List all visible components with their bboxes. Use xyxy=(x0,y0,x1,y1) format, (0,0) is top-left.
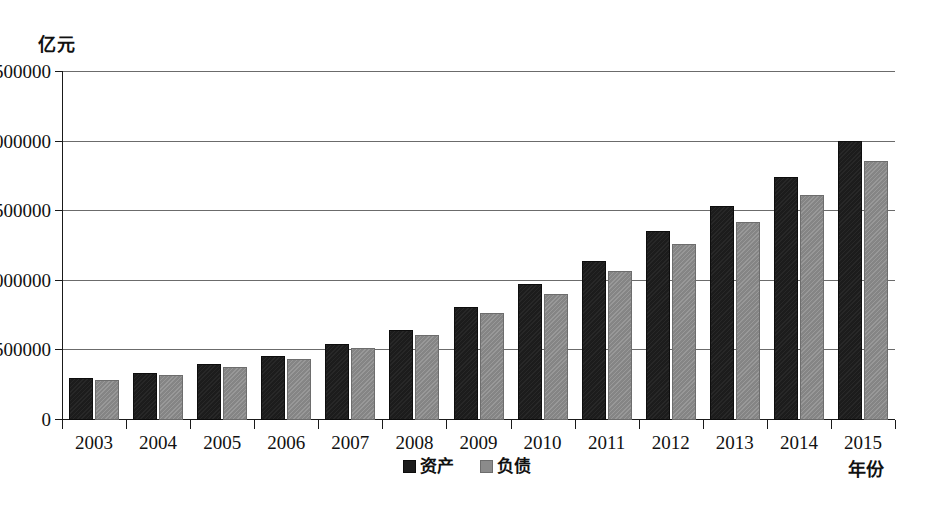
x-axis-tick-label: 2013 xyxy=(716,432,754,454)
x-axis-tick xyxy=(318,420,319,429)
y-axis-tick-label: 500000 xyxy=(0,339,51,361)
x-axis-tick-label: 2012 xyxy=(652,432,690,454)
bar-group: 2015 xyxy=(831,72,895,420)
x-axis-tick-label: 2011 xyxy=(588,432,625,454)
bar-group: 2005 xyxy=(190,72,254,420)
bar-assets-2013[interactable] xyxy=(710,206,734,420)
bar-liabilities-2013[interactable] xyxy=(736,222,760,420)
bar-group: 2003 xyxy=(62,72,126,420)
bar-group: 2010 xyxy=(511,72,575,420)
y-axis-unit-label: 亿元 xyxy=(38,30,76,56)
bar-assets-2003[interactable] xyxy=(69,378,93,420)
x-axis-tick-label: 2006 xyxy=(267,432,305,454)
bar-assets-2005[interactable] xyxy=(197,364,221,420)
bar-liabilities-2008[interactable] xyxy=(415,335,439,420)
x-axis-tick-label: 2003 xyxy=(75,432,113,454)
bar-assets-2007[interactable] xyxy=(325,344,349,420)
bar-liabilities-2012[interactable] xyxy=(672,244,696,420)
bar-assets-2012[interactable] xyxy=(646,231,670,420)
bar-group: 2012 xyxy=(639,72,703,420)
legend-swatch-icon xyxy=(403,460,416,473)
plot-area: 05000001000000150000020000002500000 2003… xyxy=(62,72,895,420)
bar-liabilities-2007[interactable] xyxy=(351,348,375,420)
legend-label: 资产 xyxy=(420,458,454,475)
x-axis-tick-label: 2005 xyxy=(203,432,241,454)
bar-assets-2015[interactable] xyxy=(838,141,862,420)
x-axis-tick xyxy=(190,420,191,429)
bar-assets-2006[interactable] xyxy=(261,356,285,420)
x-axis-tick xyxy=(703,420,704,429)
x-axis-tick xyxy=(62,420,63,429)
bar-liabilities-2004[interactable] xyxy=(159,375,183,420)
bar-assets-2004[interactable] xyxy=(133,373,157,420)
y-axis-tick-label: 2000000 xyxy=(0,131,51,153)
y-axis-tick-label: 1000000 xyxy=(0,270,51,292)
bar-liabilities-2006[interactable] xyxy=(287,359,311,420)
x-axis-tick xyxy=(575,420,576,429)
bar-group: 2014 xyxy=(767,72,831,420)
chart-legend: 资产负债 xyxy=(0,458,933,475)
bar-assets-2008[interactable] xyxy=(389,330,413,420)
bar-liabilities-2005[interactable] xyxy=(223,367,247,420)
legend-item-liabilities[interactable]: 负债 xyxy=(480,458,531,475)
bar-liabilities-2014[interactable] xyxy=(800,195,824,420)
bar-liabilities-2003[interactable] xyxy=(95,380,119,420)
x-axis-tick-label: 2010 xyxy=(524,432,562,454)
y-axis-tick-label: 1500000 xyxy=(0,200,51,222)
x-axis-tick xyxy=(126,420,127,429)
bar-chart: 亿元 05000001000000150000020000002500000 2… xyxy=(0,0,933,509)
bar-assets-2014[interactable] xyxy=(774,177,798,420)
x-axis-tick xyxy=(831,420,832,429)
bar-group: 2007 xyxy=(318,72,382,420)
bar-assets-2011[interactable] xyxy=(582,261,606,420)
bar-group: 2009 xyxy=(446,72,510,420)
bar-liabilities-2011[interactable] xyxy=(608,271,632,420)
legend-item-assets[interactable]: 资产 xyxy=(403,458,454,475)
legend-label: 负债 xyxy=(497,458,531,475)
x-axis-tick xyxy=(446,420,447,429)
bar-group: 2013 xyxy=(703,72,767,420)
y-axis-tick-label: 2500000 xyxy=(0,61,51,83)
y-axis-tick-label: 0 xyxy=(42,409,52,431)
x-axis-tick-label: 2014 xyxy=(780,432,818,454)
bar-liabilities-2009[interactable] xyxy=(480,313,504,420)
bar-liabilities-2015[interactable] xyxy=(864,161,888,420)
x-axis-tick-label: 2007 xyxy=(331,432,369,454)
x-axis-tick-label: 2004 xyxy=(139,432,177,454)
bar-group: 2011 xyxy=(575,72,639,420)
bars-layer: 2003200420052006200720082009201020112012… xyxy=(62,72,895,420)
x-axis-tick-label: 2015 xyxy=(844,432,882,454)
bar-group: 2008 xyxy=(382,72,446,420)
bar-assets-2009[interactable] xyxy=(454,307,478,420)
x-axis-tick xyxy=(895,420,896,429)
x-axis-tick xyxy=(511,420,512,429)
bar-assets-2010[interactable] xyxy=(518,284,542,420)
bar-liabilities-2010[interactable] xyxy=(544,294,568,420)
legend-swatch-icon xyxy=(480,460,493,473)
x-axis-tick xyxy=(767,420,768,429)
x-axis-tick xyxy=(254,420,255,429)
bar-group: 2004 xyxy=(126,72,190,420)
x-axis-tick-label: 2008 xyxy=(395,432,433,454)
x-axis-tick xyxy=(639,420,640,429)
x-axis-tick xyxy=(382,420,383,429)
bar-group: 2006 xyxy=(254,72,318,420)
x-axis-tick-label: 2009 xyxy=(460,432,498,454)
